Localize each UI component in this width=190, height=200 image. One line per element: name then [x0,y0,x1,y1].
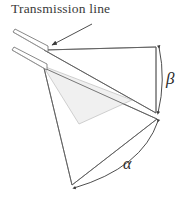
antenna-geometry-figure: Transmission line β α [0,0,190,200]
callout-arrow-line [52,24,92,45]
lower-strip-inner-edge [12,50,45,69]
antenna-diagram-canvas [0,0,190,200]
arrow-to-transmission-line [52,24,92,45]
upper-strip-inner-edge [13,32,46,51]
upper-strip-body [13,29,48,52]
beta-arc-path [158,47,162,113]
beta-angle-label: β [166,69,174,89]
lower-strip-body [12,47,47,70]
transmission-line-strip-lower [12,47,47,70]
transmission-line-strip-upper [13,29,48,52]
beta-angle-arc [158,47,162,113]
transmission-line-caption: Transmission line [11,1,110,17]
alpha-angle-label: α [123,155,131,173]
